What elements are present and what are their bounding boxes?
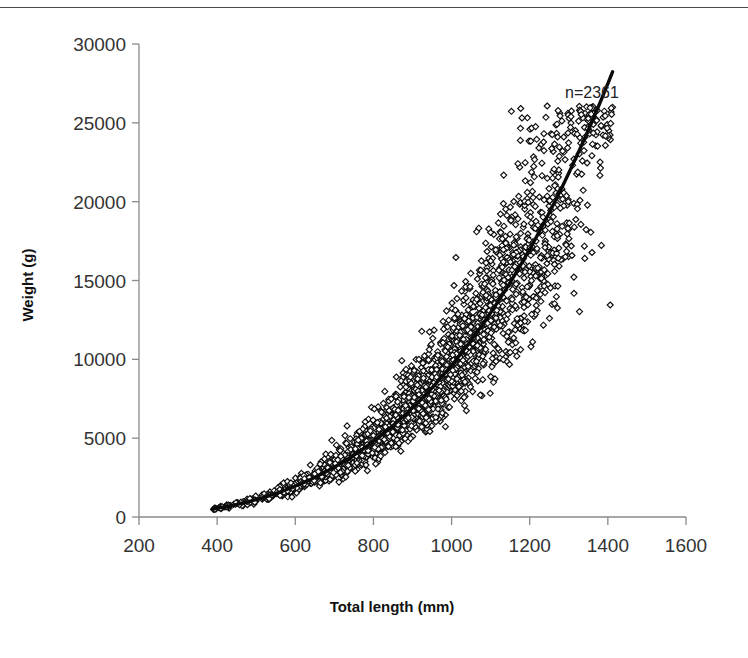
data-point <box>522 160 528 166</box>
x-tick-label: 600 <box>279 535 311 556</box>
data-point <box>580 187 586 193</box>
y-axis-tick-labels: 050001000015000200002500030000 <box>73 34 126 528</box>
x-axis-title: Total length (mm) <box>330 598 455 615</box>
data-point <box>565 145 571 151</box>
data-point <box>501 172 507 178</box>
y-tick-label: 5000 <box>84 428 126 449</box>
data-point <box>589 153 595 159</box>
data-point <box>442 424 448 430</box>
data-point <box>573 217 579 223</box>
data-point <box>495 220 501 226</box>
data-point <box>307 462 313 468</box>
data-point <box>581 243 587 249</box>
data-point <box>529 188 535 194</box>
data-point <box>468 270 474 276</box>
data-point <box>289 494 295 500</box>
data-point <box>540 322 546 328</box>
data-point <box>518 106 524 112</box>
y-tick-label: 15000 <box>73 271 126 292</box>
data-point <box>597 172 603 178</box>
data-point <box>382 388 388 394</box>
data-point <box>565 130 571 136</box>
data-point <box>561 134 567 140</box>
data-point <box>516 193 522 199</box>
y-tick-label: 0 <box>115 507 126 528</box>
y-tick-label: 30000 <box>73 34 126 55</box>
data-point <box>578 221 584 227</box>
data-point <box>508 108 514 114</box>
data-point <box>598 242 604 248</box>
data-point <box>501 223 507 229</box>
data-point <box>571 224 577 230</box>
data-point <box>577 309 583 315</box>
data-point <box>344 423 350 429</box>
data-point <box>454 296 460 302</box>
data-point <box>449 300 455 306</box>
data-point <box>521 275 527 281</box>
x-tick-label: 1400 <box>587 535 629 556</box>
x-tick-label: 200 <box>123 535 155 556</box>
x-tick-label: 1600 <box>665 535 707 556</box>
data-point <box>566 140 572 146</box>
data-point <box>534 136 540 142</box>
scatter-points-layer <box>211 103 616 513</box>
data-point <box>329 437 335 443</box>
data-point <box>575 206 581 212</box>
data-point <box>419 328 425 334</box>
data-point <box>533 303 539 309</box>
data-point <box>589 250 595 256</box>
x-axis-ticks <box>139 517 686 525</box>
data-point <box>585 202 591 208</box>
data-point <box>552 268 558 274</box>
data-point <box>550 175 556 181</box>
data-point <box>498 211 504 217</box>
data-point <box>541 131 547 137</box>
data-point <box>451 283 457 289</box>
data-point <box>571 274 577 280</box>
data-point <box>597 159 603 165</box>
data-point <box>511 199 517 205</box>
scatter-plot: 050001000015000200002500030000 200400600… <box>0 0 748 658</box>
data-point <box>513 222 519 228</box>
data-point <box>430 335 436 341</box>
y-tick-label: 10000 <box>73 349 126 370</box>
data-point <box>342 433 348 439</box>
y-tick-label: 20000 <box>73 192 126 213</box>
x-tick-label: 800 <box>358 535 390 556</box>
data-point <box>547 315 553 321</box>
x-tick-label: 1000 <box>430 535 472 556</box>
data-point <box>399 358 405 364</box>
data-point <box>453 255 459 261</box>
data-point <box>546 186 552 192</box>
x-tick-label: 400 <box>201 535 233 556</box>
data-point <box>571 290 577 296</box>
sample-size-annotation: n=2361 <box>565 84 619 101</box>
data-point <box>544 103 550 109</box>
data-point <box>517 137 523 143</box>
data-point <box>553 294 559 300</box>
data-point <box>484 249 490 255</box>
data-point <box>440 318 446 324</box>
data-point <box>539 160 545 166</box>
data-point <box>598 165 604 171</box>
x-axis-tick-labels: 2004006008001000120014001600 <box>123 535 707 556</box>
x-tick-label: 1200 <box>509 535 551 556</box>
data-point <box>602 142 608 148</box>
data-point <box>562 157 568 163</box>
data-point <box>398 448 404 454</box>
data-point <box>607 302 613 308</box>
data-point <box>524 189 530 195</box>
data-point <box>393 374 399 380</box>
data-point <box>483 240 489 246</box>
data-point <box>582 255 588 261</box>
y-axis-ticks <box>132 44 139 517</box>
data-point <box>487 390 493 396</box>
y-tick-label: 25000 <box>73 113 126 134</box>
data-point <box>543 114 549 120</box>
data-point <box>519 115 525 121</box>
data-point <box>518 125 524 131</box>
data-point <box>530 195 536 201</box>
figure-container: 050001000015000200002500030000 200400600… <box>0 0 748 658</box>
y-axis-title: Weight (g) <box>19 248 36 321</box>
